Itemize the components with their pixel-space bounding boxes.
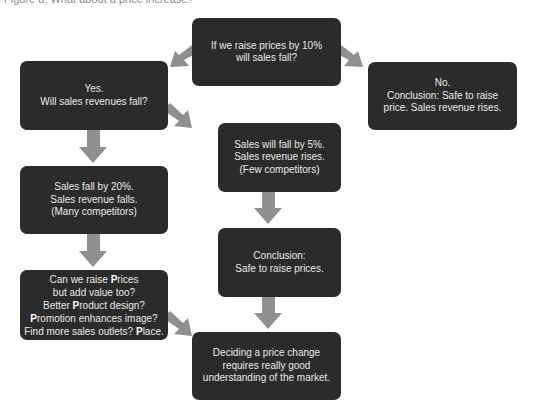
four-ps-line: Find more sales outlets? Place. xyxy=(24,325,164,338)
line-text: lace. xyxy=(143,326,164,337)
node-fall5: Sales will fall by 5%. Sales revenue ris… xyxy=(218,123,341,192)
line-text: but add value too? xyxy=(53,287,135,298)
line-text: Find more sales outlets? xyxy=(24,326,136,337)
line-text: rices xyxy=(117,274,138,285)
line-bold-letter: P xyxy=(30,313,37,324)
node-final-text: Deciding a price change requires really … xyxy=(203,347,330,385)
node-yes-text: Yes. Will sales revenues fall? xyxy=(40,83,147,108)
four-ps-line: but add value too? xyxy=(24,286,164,299)
node-safe: Conclusion: Safe to raise prices. xyxy=(218,228,341,297)
line-bold-letter: P xyxy=(136,326,143,337)
four-ps-line: Promotion enhances image? xyxy=(24,312,164,325)
line-text: Better xyxy=(43,300,72,311)
node-no: No. Conclusion: Safe to raise price. Sal… xyxy=(368,62,517,130)
node-question: If we raise prices by 10% will sales fal… xyxy=(192,18,341,86)
arrow-fall20-to-fourps xyxy=(79,234,107,267)
line-text: Can we raise xyxy=(50,274,111,285)
node-question-text: If we raise prices by 10% will sales fal… xyxy=(211,40,322,65)
node-fall5-text: Sales will fall by 5%. Sales revenue ris… xyxy=(234,139,325,177)
node-no-text: No. Conclusion: Safe to raise price. Sal… xyxy=(384,77,502,115)
four-ps-line: Better Product design? xyxy=(24,299,164,312)
node-four-ps-text: Can we raise Prices but add value too? B… xyxy=(24,273,164,338)
node-yes: Yes. Will sales revenues fall? xyxy=(20,61,168,130)
line-text: roduct design? xyxy=(79,300,145,311)
node-four-ps: Can we raise Prices but add value too? B… xyxy=(20,270,168,340)
node-safe-text: Conclusion: Safe to raise prices. xyxy=(235,250,323,275)
arrow-yes-to-fall20 xyxy=(79,130,107,163)
arrow-safe-to-final xyxy=(254,297,282,329)
node-fall20: Sales fall by 20%. Sales revenue falls. … xyxy=(20,166,168,234)
line-text: romotion enhances image? xyxy=(37,313,158,324)
node-final: Deciding a price change requires really … xyxy=(192,332,341,400)
node-fall20-text: Sales fall by 20%. Sales revenue falls. … xyxy=(50,181,137,219)
arrow-fall5-to-safe xyxy=(254,192,282,224)
four-ps-line: Can we raise Prices xyxy=(24,273,164,286)
